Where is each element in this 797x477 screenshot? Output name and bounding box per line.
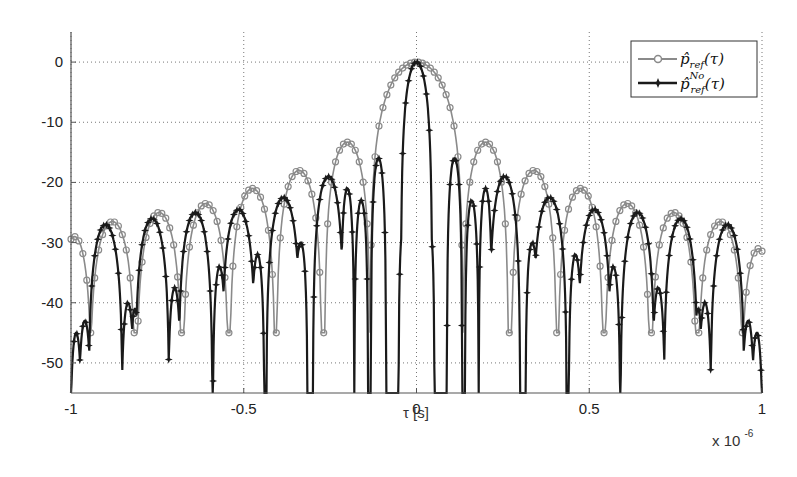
star-marker-icon: [532, 251, 540, 259]
star-marker-icon: [156, 228, 164, 236]
star-marker-icon: [716, 235, 724, 243]
star-marker-icon: [597, 216, 605, 224]
x-exponent-label: x 10 -6: [712, 428, 754, 449]
star-marker-icon: [76, 356, 84, 364]
star-marker-icon: [159, 244, 167, 252]
star-marker-icon: [692, 298, 700, 306]
star-marker-icon: [162, 272, 170, 280]
star-marker-icon: [399, 150, 407, 158]
y-tick-label: -40: [41, 294, 63, 311]
star-marker-icon: [621, 257, 629, 265]
star-marker-icon: [538, 207, 546, 215]
star-marker-icon: [165, 356, 173, 364]
star-marker-icon: [704, 309, 712, 317]
star-marker-icon: [313, 222, 321, 230]
star-marker-icon: [576, 271, 584, 279]
x-tick-label: 0.5: [579, 400, 600, 417]
star-marker-icon: [357, 196, 365, 204]
star-marker-icon: [212, 281, 220, 289]
star-marker-icon: [612, 271, 620, 279]
star-marker-icon: [707, 366, 715, 374]
star-marker-icon: [206, 287, 214, 295]
star-marker-icon: [559, 245, 567, 253]
circle-marker-icon: [655, 56, 662, 63]
star-marker-icon: [310, 293, 318, 301]
star-marker-icon: [425, 126, 433, 134]
y-tick-label: 0: [55, 53, 63, 70]
star-marker-icon: [402, 99, 410, 107]
x-axis-label: τ [s]: [403, 404, 429, 421]
star-marker-icon: [381, 228, 389, 236]
star-marker-icon: [446, 180, 454, 188]
star-marker-icon: [224, 235, 232, 243]
star-marker-icon: [289, 217, 297, 225]
star-marker-icon: [514, 257, 522, 265]
star-marker-icon: [644, 240, 652, 248]
star-marker-icon: [257, 263, 265, 271]
star-marker-icon: [627, 220, 635, 228]
star-marker-icon: [85, 341, 93, 349]
star-marker-icon: [665, 251, 673, 259]
x-tick-label: -0.5: [231, 400, 257, 417]
star-marker-icon: [405, 77, 413, 85]
y-tick-label: -50: [41, 354, 63, 371]
star-marker-icon: [422, 90, 430, 98]
star-marker-icon: [482, 184, 490, 192]
star-marker-icon: [490, 206, 498, 214]
star-marker-icon: [683, 223, 691, 231]
star-marker-icon: [567, 275, 575, 283]
star-marker-icon: [650, 308, 658, 316]
y-tick-label: -10: [41, 113, 63, 130]
legend: p̂ref(τ) p̂Noref(τ): [631, 41, 757, 97]
star-marker-icon: [624, 233, 632, 241]
star-marker-icon: [203, 248, 211, 256]
star-marker-icon: [668, 233, 676, 241]
star-marker-icon: [254, 251, 262, 259]
star-marker-icon: [369, 198, 377, 206]
star-marker-icon: [556, 220, 564, 228]
star-marker-icon: [271, 209, 279, 217]
star-marker-icon: [455, 180, 463, 188]
star-marker-icon: [553, 205, 561, 213]
star-marker-icon: [114, 269, 122, 277]
star-marker-icon: [713, 252, 721, 260]
star-marker-icon: [508, 190, 516, 198]
x-tick-label: -1: [64, 400, 77, 417]
star-marker-icon: [600, 229, 608, 237]
star-marker-icon: [488, 246, 496, 254]
star-marker-icon: [372, 161, 380, 169]
star-marker-icon: [200, 228, 208, 236]
star-marker-icon: [493, 187, 501, 195]
star-marker-icon: [579, 238, 587, 246]
x-tick-label: 1: [758, 400, 766, 417]
star-marker-icon: [339, 209, 347, 217]
star-marker-icon: [209, 377, 217, 385]
star-marker-icon: [334, 199, 342, 207]
chart: 0-10-20-30-40-50 -1-0.500.51 τ [s] x 10 …: [0, 0, 797, 477]
star-marker-icon: [443, 322, 451, 330]
star-marker-icon: [428, 243, 436, 251]
star-marker-icon: [701, 299, 709, 307]
star-marker-icon: [108, 232, 116, 240]
star-marker-icon: [523, 289, 531, 297]
star-marker-icon: [757, 366, 765, 374]
star-marker-icon: [662, 288, 670, 296]
star-marker-icon: [245, 232, 253, 240]
x-exponent-power: -6: [745, 428, 754, 439]
star-marker-icon: [242, 217, 250, 225]
x-exponent-base: x 10: [712, 432, 740, 449]
series-line: [71, 62, 762, 393]
star-marker-icon: [562, 308, 570, 316]
star-marker-icon: [316, 195, 324, 203]
star-marker-icon: [301, 267, 309, 275]
star-marker-icon: [396, 270, 404, 278]
star-marker-icon: [710, 282, 718, 290]
star-marker-icon: [485, 197, 493, 205]
y-tick-label: -30: [41, 234, 63, 251]
y-tick-label: -20: [41, 173, 63, 190]
star-marker-icon: [111, 245, 119, 253]
star-marker-icon: [535, 223, 543, 231]
star-marker-icon: [182, 228, 190, 236]
star-marker-icon: [419, 72, 427, 80]
star-marker-icon: [348, 228, 356, 236]
